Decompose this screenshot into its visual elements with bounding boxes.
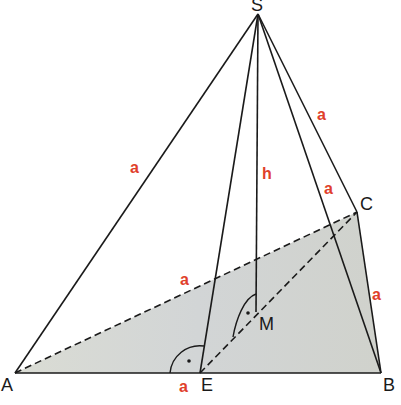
vertex-label-s: S (251, 0, 263, 14)
edge-label-ae: a (179, 379, 188, 395)
right-angle-dot-m (246, 311, 250, 315)
height-label-h: h (262, 166, 272, 182)
edge-sc (258, 14, 357, 212)
diagram-drawing (0, 0, 401, 405)
edge-label-sb: a (324, 181, 333, 197)
edge-label-sc: a (317, 107, 326, 123)
vertex-label-c: C (360, 195, 373, 213)
edge-label-ac: a (180, 272, 189, 288)
tetrahedron-diagram: S A B C E M a a a a a a h (0, 0, 401, 405)
vertex-label-a: A (1, 376, 13, 394)
edge-label-sa: a (130, 160, 139, 176)
vertex-label-b: B (383, 376, 395, 394)
vertex-label-e: E (201, 376, 213, 394)
vertex-label-m: M (259, 315, 274, 333)
right-angle-dot-e (187, 359, 191, 363)
edge-label-cb: a (372, 287, 381, 303)
